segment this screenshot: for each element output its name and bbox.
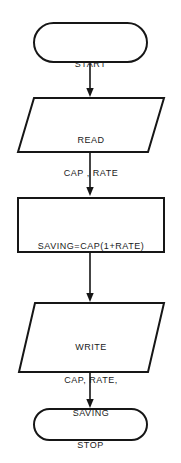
start-node-line-1: START [33,59,148,70]
flowchart-diagram: START READ CAP , RATE SAVING=CAP(1+RATE)… [0,0,181,463]
stop-node-line-1: STOP [33,440,148,451]
start-node-label: START [33,37,148,92]
read-node-line-1: READ [26,135,156,146]
process-node-label: SAVING=CAP(1+RATE) [17,219,165,274]
write-node-line-2: CAP, RATE, [26,375,156,386]
read-node-line-2: CAP , RATE [26,168,156,179]
read-node-label: READ CAP , RATE [26,113,156,201]
stop-node-label: STOP [33,418,148,463]
process-node-line-1: SAVING=CAP(1+RATE) [17,241,165,252]
write-node-line-1: WRITE [26,342,156,353]
